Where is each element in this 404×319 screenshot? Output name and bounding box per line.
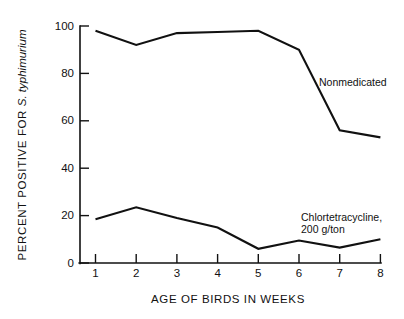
line-chart-svg: 0 20 40 60 80 100 1 2 3 4 5 6 7 8 [0,0,404,319]
ytick-label-0: 0 [68,257,74,269]
xtick-label-4: 4 [214,267,221,279]
y-axis-title-plain: PERCENT POSITIVE FOR [16,106,28,260]
xtick-label-7: 7 [336,267,342,279]
xtick-label-1: 1 [92,267,98,279]
ytick-label-60: 60 [61,114,74,126]
xtick-label-6: 6 [296,267,302,279]
ytick-label-20: 20 [61,209,74,221]
chart-background [0,0,404,319]
xtick-label-5: 5 [255,267,261,279]
annotation-nonmedicated-text: Nonmedicated [319,76,387,88]
y-axis-title: PERCENT POSITIVE FOR S. typhimurium [16,29,28,260]
ytick-label-100: 100 [55,20,74,32]
ytick-label-40: 40 [61,162,74,174]
ytick-label-80: 80 [61,67,74,79]
chart-figure: 0 20 40 60 80 100 1 2 3 4 5 6 7 8 [0,0,404,319]
xtick-label-3: 3 [174,267,180,279]
annotation-nonmedicated: Nonmedicated [319,76,387,88]
annotation-chlortetracycline-line2: 200 g/ton [301,223,345,235]
x-axis-title: AGE OF BIRDS IN WEEKS [151,293,305,305]
y-axis-title-italic: S. typhimurium [16,29,28,106]
xtick-label-2: 2 [133,267,139,279]
xtick-label-8: 8 [377,267,383,279]
annotation-chlortetracycline-line1: Chlortetracycline, [301,211,382,223]
